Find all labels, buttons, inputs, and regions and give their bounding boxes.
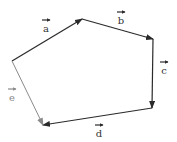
vector-b-label: b [118,15,124,26]
vector-e-label: e [9,92,15,103]
vector-d-label: d [96,128,103,139]
labels-layer: abcde [8,12,168,139]
vector-c-arrow [152,39,153,108]
vector-c-label: c [161,65,167,76]
vector-diagram: abcde [0,0,177,142]
vector-d-arrow [43,108,152,125]
vector-e-arrow [12,61,43,125]
vector-a-label: a [43,23,49,34]
vectors-layer [12,19,153,125]
